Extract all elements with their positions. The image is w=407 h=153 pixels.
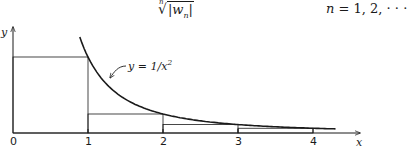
curve-series bbox=[80, 37, 336, 129]
x-tick-label-0: 0 bbox=[10, 135, 17, 148]
rectangle-1 bbox=[13, 57, 88, 133]
annotation-leader-icon bbox=[110, 66, 126, 78]
curve-annotation-text: y = 1/x bbox=[127, 60, 168, 73]
x-tick-label-1: 1 bbox=[85, 135, 92, 148]
curve-annotation-sup: 2 bbox=[166, 58, 172, 67]
curve-annotation: y = 1/x2 bbox=[127, 58, 172, 73]
x-tick-label-2: 2 bbox=[160, 135, 167, 148]
x-tick-label-3: 3 bbox=[235, 135, 242, 148]
rectangle-4 bbox=[238, 128, 313, 133]
rectangle-2 bbox=[88, 114, 163, 133]
rectangle-3 bbox=[163, 125, 238, 133]
x-axis-label: x bbox=[356, 136, 363, 149]
y-axis-label: y bbox=[0, 26, 8, 39]
x-tick-label-4: 4 bbox=[310, 135, 317, 148]
